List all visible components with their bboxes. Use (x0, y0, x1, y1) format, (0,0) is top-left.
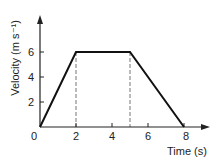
origin-label: 0 (31, 130, 37, 142)
y-tick-label-6: 6 (28, 46, 34, 58)
x-axis-title: Time (s) (167, 145, 207, 157)
x-tick-label-4: 4 (109, 130, 115, 142)
velocity-time-chart: 2 4 6 0 2 4 6 8 Time (s) Velocity (m s⁻¹… (0, 0, 221, 162)
y-axis-arrow-icon (37, 15, 43, 24)
velocity-line (40, 52, 184, 127)
y-axis-title: Velocity (m s⁻¹) (9, 20, 21, 96)
x-tick-label-6: 6 (145, 130, 151, 142)
x-axis-arrow-icon (201, 124, 210, 130)
y-tick-label-4: 4 (28, 71, 34, 83)
x-tick-label-2: 2 (73, 130, 79, 142)
y-tick-label-2: 2 (28, 96, 34, 108)
x-tick-label-8: 8 (183, 130, 189, 142)
